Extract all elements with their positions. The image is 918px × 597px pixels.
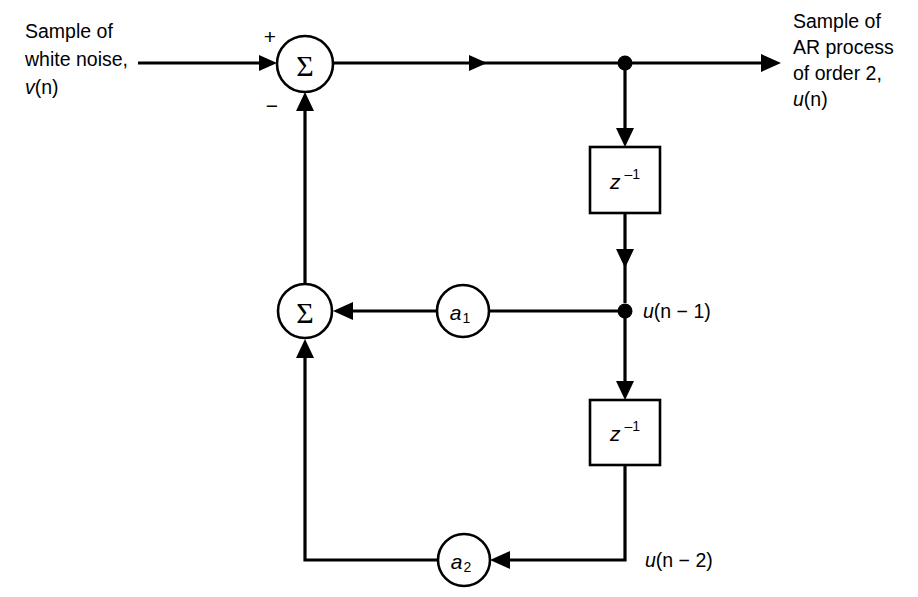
feedback-summing-junction: Σ [278,284,332,338]
delay1-input-arrowhead [616,128,634,147]
diagram-canvas: Σ + − z–1 [0,0,918,597]
gain-a2-subscript: 2 [463,559,471,575]
wire-delay1-to-tap1 [616,213,634,319]
feedback-adder-sigma-glyph: Σ [296,296,313,329]
output-signal-arg: (n) [804,88,828,110]
top-adder-sigma-glyph: Σ [296,49,313,82]
input-caption-line2: white noise, [24,48,128,70]
delay-block-1: z–1 [590,147,660,213]
top-adder-plus-sign: + [264,25,276,48]
delay-block-2: z–1 [590,400,660,465]
wire-gain-a1-to-adder [333,302,437,320]
output-arrowhead [761,54,781,72]
delay2-input-arrowhead [616,381,634,400]
output-signal-var: u [793,88,804,110]
adder2-right-input-arrowhead [333,302,353,320]
output-caption: Sample of AR process of order 2, u(n) [793,10,894,110]
input-caption: Sample of white noise, v(n) [24,20,128,98]
gain-a2-symbol: a [451,550,463,573]
top-output-wire [333,54,781,72]
adder2-bottom-input-arrowhead [296,339,314,358]
input-signal-arg: (n) [35,76,59,98]
tap-label-un1-expr: (n − 1) [654,300,711,322]
gain-a1-subscript: 1 [462,310,470,326]
input-arrowhead [259,55,277,71]
ar-process-signal-flow-diagram: Σ + − z–1 [0,0,918,597]
top-adder-minus-sign: − [266,94,278,117]
input-caption-line3: v(n) [25,76,59,98]
gain-a1: a1 [437,285,489,337]
gain-a2: a2 [438,534,490,586]
branch-to-delay-1 [616,63,634,147]
tap-label-un1-var: u [643,300,654,322]
tap-label-un2: u(n − 2) [645,549,713,571]
input-caption-line1: Sample of [25,20,113,42]
branch-to-delay-2 [616,311,634,400]
output-caption-line1: Sample of [793,10,881,32]
delay-block-1-exponent: –1 [624,166,640,182]
tap1-arrowhead [616,249,634,268]
wire-gain-a2-to-adder [296,339,438,560]
wire-delay2-to-gain-a2 [490,465,625,569]
top-adder-minus-input-arrowhead [296,92,314,111]
output-caption-line2: AR process [793,36,894,58]
gain-a1-symbol: a [450,301,462,324]
input-wire [138,55,277,71]
tap-label-un1: u(n − 1) [643,300,711,322]
top-summing-junction: Σ + − [264,25,333,117]
tap-label-un2-expr: (n − 2) [656,549,713,571]
output-caption-line4: u(n) [793,88,828,110]
output-caption-line3: of order 2, [793,62,882,84]
tap-label-un2-var: u [645,549,656,571]
top-wire-midpoint-arrowhead [469,55,487,71]
delay-block-2-exponent: –1 [624,418,640,434]
delay-block-2-symbol: z [609,422,621,445]
delay-block-1-symbol: z [609,170,621,193]
gain-a2-input-arrowhead [490,551,510,569]
feedback-wire-to-top-adder [296,92,314,284]
svg-text:u(n − 2): u(n − 2) [645,549,713,571]
svg-text:u(n − 1): u(n − 1) [643,300,711,322]
